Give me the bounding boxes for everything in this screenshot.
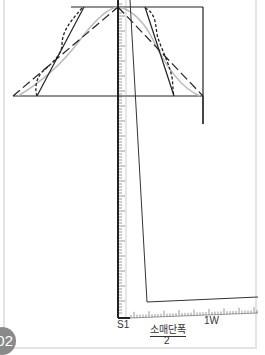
dashed-diagonal-lines (13, 7, 203, 96)
vertical-ruler (118, 0, 147, 318)
label-start-point: S1 (117, 319, 129, 330)
dotted-curve-lines (36, 8, 174, 96)
solid-guide-lines (37, 7, 174, 96)
label-fraction-denominator: 2 (164, 335, 170, 346)
label-end-point: 1W (204, 315, 219, 326)
